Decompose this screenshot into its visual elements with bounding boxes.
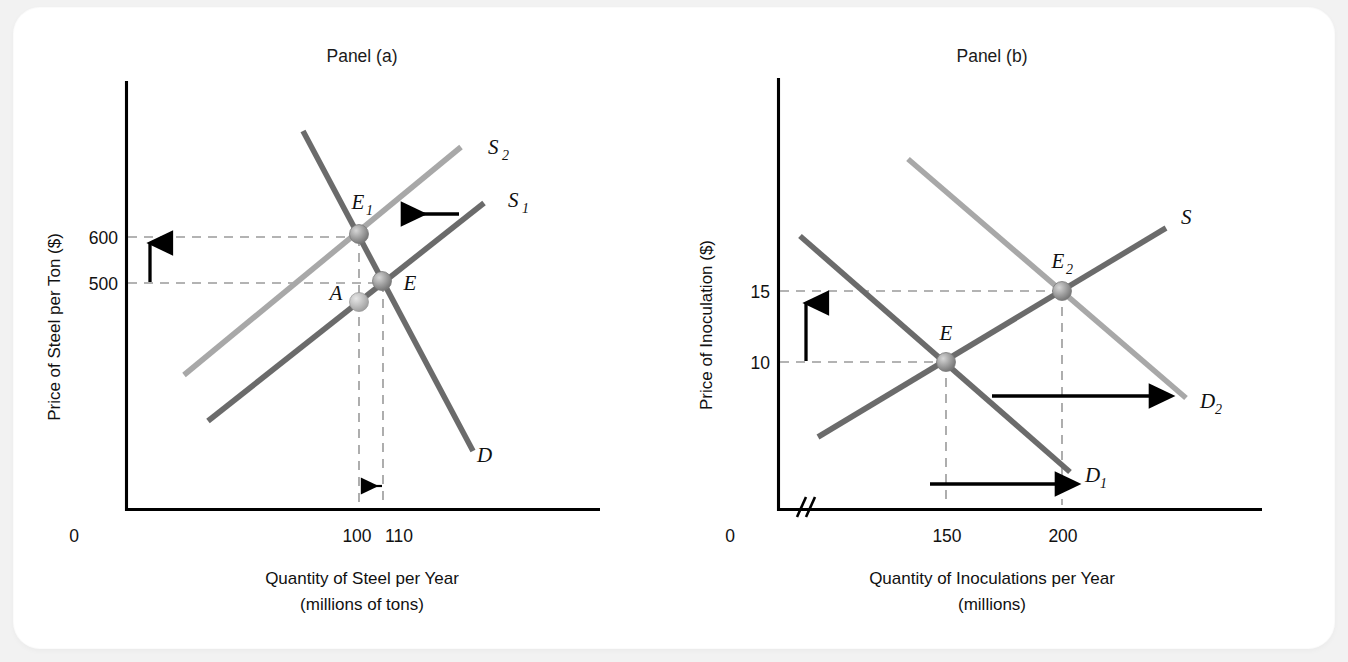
svg-text:D: D — [1084, 463, 1100, 487]
panel-a-ytick-600: 600 — [89, 228, 118, 248]
panel-b-curve-d1 — [800, 236, 1070, 472]
svg-text:2: 2 — [1215, 402, 1222, 417]
panel-a-xtick-110: 110 — [385, 526, 413, 546]
panel-a-label-s1: S 1 — [508, 188, 529, 216]
svg-text:E: E — [1051, 249, 1065, 273]
svg-text:E: E — [939, 321, 953, 345]
panel-a-point-e1 — [350, 225, 369, 244]
panel-a-label-s1-sub: 1 — [522, 201, 529, 216]
panel-b-title: Panel (b) — [956, 46, 1027, 66]
panel-a-curve-s2 — [184, 147, 461, 375]
panel-b-ytick-10: 10 — [751, 353, 771, 373]
svg-text:D: D — [476, 443, 492, 467]
panel-a-x-axis-title-line2: (millions of tons) — [300, 595, 424, 614]
svg-text:2: 2 — [1066, 262, 1073, 277]
supply-demand-figure: Panel (a) S 2 S 1 D — [0, 0, 1348, 662]
panel-a-curve-d — [303, 131, 473, 451]
panel-a: Panel (a) S 2 S 1 D — [45, 46, 600, 614]
panel-a-y-axis-title: Price of Steel per Ton ($) — [45, 233, 64, 421]
panel-a-label-a: A — [328, 281, 343, 305]
svg-text:E: E — [351, 190, 365, 214]
svg-text:S: S — [508, 188, 519, 212]
panel-a-title: Panel (a) — [326, 46, 397, 66]
svg-text:D: D — [1199, 389, 1215, 413]
panel-a-label-e: E — [403, 271, 417, 295]
panel-b-label-s: S — [1181, 205, 1192, 229]
svg-text:E: E — [403, 271, 417, 295]
panel-b-label-e2: E 2 — [1051, 249, 1073, 277]
panel-b-x-axis-title-line2: (millions) — [958, 595, 1026, 614]
svg-text:1: 1 — [1100, 476, 1107, 491]
svg-text:2: 2 — [502, 148, 509, 163]
panel-b-label-d2: D 2 — [1199, 389, 1222, 417]
panel-a-point-a — [350, 293, 369, 312]
panel-b-y-axis-title: Price of Inoculation ($) — [697, 240, 716, 410]
panel-a-origin-label: 0 — [69, 526, 79, 546]
panel-a-point-e — [373, 272, 392, 291]
panel-b-label-d1: D 1 — [1084, 463, 1107, 491]
panel-b-label-e: E — [939, 321, 953, 345]
panel-a-x-axis-title-line1: Quantity of Steel per Year — [265, 569, 459, 588]
panel-b-origin-label: 0 — [725, 526, 735, 546]
svg-text:S: S — [1181, 205, 1192, 229]
panel-b-point-e2 — [1053, 282, 1072, 301]
svg-text:S: S — [488, 135, 499, 159]
panel-a-xtick-100: 100 — [342, 526, 371, 546]
panel-b-axis-break-mark-1 — [797, 497, 806, 517]
panel-b-point-e — [937, 353, 956, 372]
panel-a-ytick-500: 500 — [89, 274, 118, 294]
panel-a-label-d: D — [476, 443, 492, 467]
panel-b-ytick-15: 15 — [751, 282, 770, 302]
figure-root: Panel (a) S 2 S 1 D — [0, 0, 1348, 662]
svg-text:1: 1 — [366, 203, 373, 218]
panel-b-axis-break-mark-2 — [806, 497, 815, 517]
svg-text:A: A — [328, 281, 343, 305]
panel-b-xtick-200: 200 — [1048, 526, 1077, 546]
panel-b-x-axis-title-line1: Quantity of Inoculations per Year — [869, 569, 1115, 588]
panel-a-label-s2: S 2 — [488, 135, 509, 163]
panel-b: Panel (b) S D 2 — [697, 46, 1262, 614]
panel-a-label-e1: E 1 — [351, 190, 373, 218]
panel-b-xtick-150: 150 — [932, 526, 961, 546]
